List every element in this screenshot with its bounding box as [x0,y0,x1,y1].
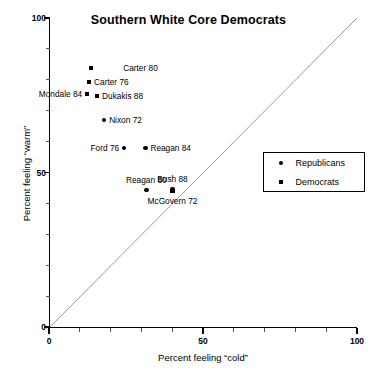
y-tick-label-0: 0 [41,322,46,332]
legend-box: Republicans Democrats [263,152,365,192]
x-tick-minor-70 [264,328,265,332]
x-axis-title: Percent feeling “cold” [49,352,357,363]
legend-entry-democrats: Democrats [264,172,366,192]
data-point-label-ford-76: Ford 76 [91,143,120,153]
y-tick-minor-20 [46,265,50,266]
data-point-label-dukakis-88: Dukakis 88 [102,91,143,101]
circle-marker-icon [279,161,283,165]
x-tick-minor-60 [233,328,234,332]
y-tick-minor-60 [46,141,50,142]
data-point-label-carter-76: Carter 76 [94,77,129,87]
chart-title: Southern White Core Democrats [0,13,377,27]
x-tick-label-100: 100 [350,336,364,346]
data-point-reagan-84 [143,146,148,151]
x-tick-100 [356,328,357,334]
data-point-label-nixon-72: Nixon 72 [109,115,142,125]
square-marker-icon [279,180,283,184]
y-axis-title: Percent feeling “warm” [21,89,32,259]
data-point-ford-76 [122,146,127,151]
data-point-carter-80 [89,66,94,71]
x-tick-minor-40 [172,328,173,332]
y-tick-minor-90 [46,48,50,49]
y-tick-minor-80 [46,79,50,80]
x-tick-label-50: 50 [198,336,207,346]
data-point-label-mondale-84: Mondale 84 [39,89,82,99]
x-tick-0 [48,328,49,334]
data-point-label-reagan-84: Reagan 84 [150,143,191,153]
x-tick-minor-30 [141,328,142,332]
x-tick-minor-80 [295,328,296,332]
data-point-mcgovern-72 [170,189,175,194]
x-tick-50 [202,328,203,334]
scatter-chart: Southern White Core Democrats 0501000501… [0,0,377,374]
legend-label-democrats: Democrats [295,177,339,187]
data-point-reagan-80 [144,188,149,193]
data-point-label-bush-88: Bush 88 [157,174,187,184]
y-tick-minor-30 [46,234,50,235]
x-tick-minor-10 [79,328,80,332]
y-tick-label-100: 100 [32,13,46,23]
data-point-nixon-72 [102,118,107,123]
y-tick-minor-40 [46,203,50,204]
x-tick-minor-20 [110,328,111,332]
legend-label-republicans: Republicans [295,158,345,168]
y-tick-minor-70 [46,110,50,111]
data-point-label-mcgovern-72: McGovern 72 [148,196,198,206]
x-tick-minor-90 [326,328,327,332]
data-point-carter-76 [87,80,92,85]
y-tick-minor-10 [46,296,50,297]
data-point-mondale-84 [85,92,90,97]
legend-entry-republicans: Republicans [264,153,366,173]
data-point-label-carter-80: Carter 80 [123,63,158,73]
y-tick-label-50: 50 [37,168,46,178]
data-point-dukakis-88 [95,94,100,99]
x-tick-label-0: 0 [47,336,52,346]
